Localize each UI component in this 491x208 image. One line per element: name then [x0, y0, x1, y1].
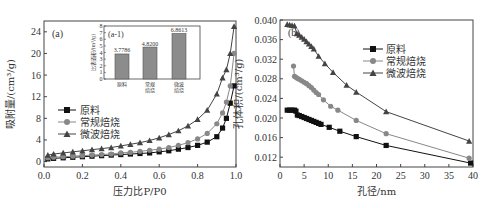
inset-bar: [115, 54, 129, 79]
triangle-marker: [204, 107, 210, 113]
inset-y-tick-label: 0: [100, 76, 103, 82]
circle-marker: [166, 145, 171, 150]
legend-label: 微波焙烧: [386, 67, 426, 79]
x-tick-label: 0.6: [153, 170, 166, 181]
y-axis-label: 吸附量/(cm³/g): [4, 59, 16, 129]
circle-marker: [176, 143, 181, 148]
circle-marker: [354, 118, 359, 123]
chart-canvas: 0.00.20.40.60.81.004812162024压力比P/P0吸附量/…: [0, 0, 491, 208]
circle-marker: [147, 148, 152, 153]
y-tick-label: 0.036: [255, 34, 278, 45]
inset-y-tick-label: 3: [100, 56, 103, 62]
legend-a: 原料常规焙烧微波焙烧: [58, 104, 120, 140]
chart-b: 05101520253035400.0120.0160.0200.0240.02…: [233, 15, 478, 198]
circle-marker: [89, 153, 94, 158]
triangle-marker: [219, 75, 225, 81]
square-marker: [185, 145, 190, 150]
x-tick-label: 10: [323, 170, 333, 181]
square-marker: [214, 134, 219, 139]
circle-marker: [214, 121, 219, 126]
triangle-marker: [175, 128, 181, 134]
series-0: [285, 108, 474, 166]
circle-marker: [185, 140, 190, 145]
inset-bar: [143, 47, 157, 79]
square-marker: [224, 116, 229, 121]
x-tick-label: 0.2: [76, 170, 89, 181]
y-tick-label: 8: [36, 113, 41, 124]
circle-marker: [157, 147, 162, 152]
inset-panel-label: (a-1): [108, 30, 124, 39]
square-marker: [318, 122, 323, 127]
inset-bar-chart: 012345678比表面积/(m²/g)(a-1)3.7786原料4.8200常…: [90, 23, 200, 94]
x-axis-label: 孔径/nm: [357, 185, 397, 197]
circle-marker: [109, 151, 114, 156]
circle-marker: [205, 131, 210, 136]
y-tick-label: 12: [31, 91, 41, 102]
square-marker: [327, 125, 332, 130]
panel-label: (a): [52, 28, 63, 40]
inset-y-tick-label: 4: [100, 50, 103, 56]
inset-category-label: 焙烧: [145, 87, 155, 94]
x-tick-label: 0: [278, 170, 283, 181]
series-line: [287, 110, 470, 163]
legend-label: 常规焙烧: [386, 55, 426, 67]
triangle-marker: [185, 123, 191, 129]
square-marker: [468, 160, 473, 165]
inset-bar: [172, 34, 186, 79]
circle-marker: [291, 63, 296, 68]
y-tick-label: 0.032: [255, 54, 278, 65]
triangle-marker: [383, 109, 389, 115]
square-marker: [384, 143, 389, 148]
inset-y-axis-label: 比表面积/(m²/g): [90, 34, 97, 71]
circle-marker: [224, 100, 229, 105]
legend-b: 原料常规焙烧微波焙烧: [363, 43, 426, 79]
series-1: [291, 63, 472, 160]
x-tick-label: 30: [420, 170, 430, 181]
legend-label: 微波焙烧: [80, 128, 120, 140]
inset-y-tick-label: 6: [100, 36, 103, 42]
x-tick-label: 0.4: [115, 170, 128, 181]
square-marker: [337, 129, 342, 134]
inset-category-label: 原料: [117, 81, 127, 88]
inset-category-label: 焙烧: [174, 87, 184, 94]
inset-value-label: 3.7786: [114, 47, 131, 53]
inset-y-tick-label: 1: [100, 69, 103, 75]
x-tick-label: 5: [302, 170, 307, 181]
legend-label: 原料: [386, 43, 406, 55]
circle-marker: [195, 136, 200, 141]
square-marker: [195, 143, 200, 148]
circle-marker: [118, 150, 123, 155]
x-tick-label: 0.0: [38, 170, 51, 181]
y-tick-label: 0.040: [255, 15, 278, 26]
x-tick-label: 15: [347, 170, 357, 181]
circle-marker: [328, 104, 333, 109]
x-tick-label: 1.0: [230, 170, 243, 181]
inset-y-tick-label: 2: [100, 63, 103, 69]
y-tick-label: 20: [31, 48, 41, 59]
figure: 0.00.20.40.60.81.004812162024压力比P/P0吸附量/…: [0, 0, 491, 208]
circle-marker: [370, 58, 376, 64]
y-tick-label: 0.028: [255, 73, 278, 84]
y-tick-label: 16: [31, 70, 41, 81]
circle-marker: [137, 149, 142, 154]
inset-y-tick-label: 5: [100, 43, 103, 49]
x-tick-label: 40: [468, 170, 478, 181]
inset-y-tick-label: 8: [100, 23, 103, 29]
inset-value-label: 4.8200: [142, 41, 159, 47]
inset-value-label: 6.8613: [171, 27, 188, 33]
y-tick-label: 0.024: [255, 93, 278, 104]
y-tick-label: 24: [31, 26, 41, 37]
triangle-marker: [316, 53, 322, 59]
inset-y-tick-label: 7: [100, 30, 103, 36]
square-marker: [370, 46, 376, 52]
circle-marker: [384, 131, 389, 136]
triangle-marker: [223, 67, 229, 73]
y-axis-label: 孔体积/(cm³/g): [233, 58, 244, 128]
triangle-marker: [166, 131, 172, 137]
square-marker: [205, 140, 210, 145]
square-marker: [64, 107, 70, 113]
circle-marker: [321, 97, 326, 102]
circle-marker: [64, 119, 70, 125]
circle-marker: [467, 156, 472, 161]
y-tick-label: 0.016: [255, 132, 278, 143]
